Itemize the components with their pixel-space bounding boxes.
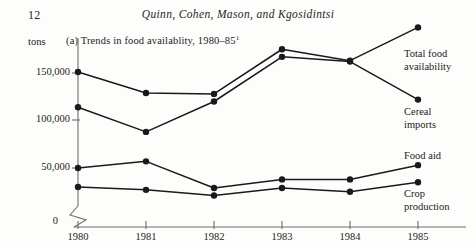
data-point-cereal-imports-1985[interactable] xyxy=(415,96,421,102)
data-point-cereal-imports-1980[interactable] xyxy=(75,104,81,110)
data-point-crop-production-1985[interactable] xyxy=(415,179,421,185)
y-tick-label-150000: 150,000 xyxy=(12,66,70,77)
data-point-cereal-imports-1983[interactable] xyxy=(279,54,285,60)
data-point-cereal-imports-1982[interactable] xyxy=(211,98,217,104)
series-label-crop-line2: production xyxy=(404,201,450,214)
series-food-aid xyxy=(75,158,421,191)
y-tick-label-100000: 100,000 xyxy=(12,113,70,124)
x-tick-label-1985: 1985 xyxy=(396,231,440,242)
series-label-food-aid-line1: Food aid xyxy=(404,150,441,163)
data-point-food-aid-1982[interactable] xyxy=(211,185,217,191)
x-tick-label-1983: 1983 xyxy=(260,231,304,242)
series-label-cereal-line1: Cereal xyxy=(404,106,436,119)
data-point-crop-production-1983[interactable] xyxy=(279,185,285,191)
series-label-crop-line1: Crop xyxy=(404,188,450,201)
data-point-total-food-availability-1981[interactable] xyxy=(143,90,149,96)
series-cereal-imports xyxy=(75,54,421,135)
x-tick-label-1981: 1981 xyxy=(124,231,168,242)
data-point-crop-production-1984[interactable] xyxy=(347,189,353,195)
series-label-total-food-line1: Total food xyxy=(404,48,451,61)
series-total-food-availability xyxy=(75,24,421,97)
data-point-food-aid-1983[interactable] xyxy=(279,176,285,182)
data-point-total-food-availability-1983[interactable] xyxy=(279,46,285,52)
data-point-cereal-imports-1981[interactable] xyxy=(143,129,149,135)
figure-page: 12 Quinn, Cohen, Mason, and Kgosidintsi … xyxy=(0,0,476,248)
series-label-crop-production: Crop production xyxy=(404,188,450,213)
data-point-total-food-availability-1985[interactable] xyxy=(415,24,421,30)
data-point-crop-production-1980[interactable] xyxy=(75,184,81,190)
series-label-total-food-line2: availability xyxy=(404,61,451,74)
series-label-cereal-line2: imports xyxy=(404,119,436,132)
series-crop-production xyxy=(75,179,421,199)
x-tick-label-1984: 1984 xyxy=(328,231,372,242)
data-point-total-food-availability-1980[interactable] xyxy=(75,69,81,75)
series-label-food-aid: Food aid xyxy=(404,150,441,163)
data-point-crop-production-1981[interactable] xyxy=(143,187,149,193)
data-point-food-aid-1981[interactable] xyxy=(143,158,149,164)
x-tick-label-1982: 1982 xyxy=(192,231,236,242)
y-tick-label-0: 0 xyxy=(12,215,58,226)
data-point-cereal-imports-1984[interactable] xyxy=(347,58,353,64)
data-point-total-food-availability-1982[interactable] xyxy=(211,91,217,97)
data-point-crop-production-1982[interactable] xyxy=(211,192,217,198)
data-point-food-aid-1984[interactable] xyxy=(347,176,353,182)
data-point-food-aid-1985[interactable] xyxy=(415,162,421,168)
y-tick-label-50000: 50,000 xyxy=(12,161,70,172)
series-label-total-food-availability: Total food availability xyxy=(404,48,451,73)
series-layer xyxy=(75,24,421,199)
data-point-food-aid-1980[interactable] xyxy=(75,165,81,171)
series-label-cereal-imports: Cereal imports xyxy=(404,106,436,131)
series-line-food-aid xyxy=(78,161,418,188)
series-line-total-food-availability xyxy=(78,27,418,94)
x-tick-label-1980: 1980 xyxy=(56,231,100,242)
series-line-cereal-imports xyxy=(78,57,418,132)
